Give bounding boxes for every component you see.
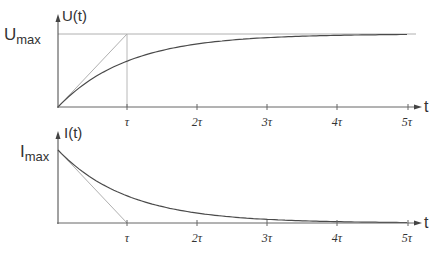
initial-tangent-line [58, 34, 127, 107]
tick-label-4tau: 4τ [332, 115, 343, 129]
tick-label-3tau: 3τ [261, 115, 273, 129]
current-chart: I(t) Imax t τ 2τ 3τ 4τ 5τ [20, 124, 429, 245]
umax-label: Umax [4, 25, 41, 47]
tick-label-3tau: 3τ [261, 231, 273, 245]
charts-canvas: U(t) Umax t τ 2τ 3τ 4τ 5τ I(t) Imax t τ [0, 0, 443, 254]
voltage-curve [58, 35, 407, 108]
tick-label-tau: τ [125, 231, 130, 245]
current-curve [58, 150, 407, 223]
tick-label-5tau: 5τ [402, 231, 413, 245]
i-axis-label: I(t) [64, 124, 82, 141]
i-y-axis-arrow-icon [56, 131, 61, 139]
u-axis-label: U(t) [62, 7, 87, 24]
u-tick-labels: τ 2τ 3τ 4τ 5τ [125, 115, 413, 129]
u-x-axis-arrow-icon [414, 105, 422, 110]
tick-label-tau: τ [125, 115, 130, 129]
tick-label-5tau: 5τ [402, 115, 413, 129]
tick-label-4tau: 4τ [332, 231, 343, 245]
tick-label-2tau: 2τ [192, 115, 203, 129]
i-t-axis-label: t [424, 214, 429, 231]
initial-tangent-line [58, 150, 127, 223]
i-tick-labels: τ 2τ 3τ 4τ 5τ [125, 231, 413, 245]
i-x-axis-arrow-icon [414, 221, 422, 226]
tick-label-2tau: 2τ [192, 231, 203, 245]
voltage-chart: U(t) Umax t τ 2τ 3τ 4τ 5τ [4, 7, 429, 129]
u-y-axis-arrow-icon [56, 14, 61, 22]
imax-label: Imax [20, 142, 50, 164]
u-t-axis-label: t [424, 98, 429, 115]
